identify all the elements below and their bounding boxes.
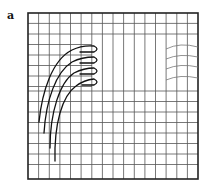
- faint-curves: [166, 45, 198, 80]
- distorted-grid-diagram: [0, 0, 209, 190]
- grid-lines: [28, 13, 198, 179]
